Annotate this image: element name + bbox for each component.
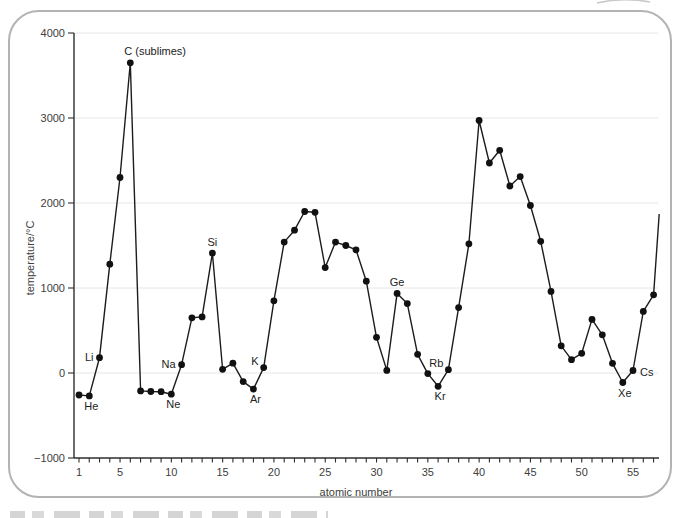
data-point-Pd: [537, 238, 544, 245]
data-point-Zn: [373, 334, 380, 341]
data-point-Rb: [445, 366, 452, 373]
top-edge-remnant: [597, 0, 650, 3]
y-tick-label: 2000: [41, 197, 65, 209]
data-point-I: [609, 360, 616, 367]
data-point-K: [260, 364, 267, 371]
annotation-Si: Si: [208, 236, 218, 248]
annotation-Kr: Kr: [435, 390, 446, 402]
data-point-Se: [414, 351, 421, 358]
data-point-Mg: [189, 314, 196, 321]
data-point-As: [404, 300, 411, 307]
y-tick-label: 0: [59, 367, 65, 379]
y-tick-label: 4000: [41, 27, 65, 39]
x-tick-label: 1: [76, 466, 82, 478]
annotation-Rb: Rb: [429, 357, 443, 369]
y-tick-label: 1000: [41, 282, 65, 294]
data-point-Tc: [507, 183, 514, 190]
x-axis-title: atomic number: [320, 486, 393, 498]
data-point-Mn: [322, 264, 329, 271]
data-point-Fe: [332, 239, 339, 246]
x-tick-label: 25: [319, 466, 331, 478]
annotation-Xe: Xe: [618, 387, 631, 399]
x-tick-label: 15: [217, 466, 229, 478]
data-point-Cu: [363, 278, 370, 285]
x-tick-label: 30: [370, 466, 382, 478]
annotation-Cs: Cs: [640, 366, 654, 378]
x-tick-label: 20: [268, 466, 280, 478]
data-point-Sn: [578, 350, 585, 357]
y-axis-title: temperature/°C: [24, 221, 36, 296]
annotation-C: C (sublimes): [124, 45, 186, 57]
data-point-La: [650, 291, 657, 298]
data-point-Ga: [383, 367, 390, 374]
annotation-Ge: Ge: [390, 276, 405, 288]
annotation-Ar: Ar: [250, 393, 261, 405]
data-point-Rh: [527, 202, 534, 209]
data-point-S: [230, 360, 237, 367]
data-point-Li: [96, 354, 103, 361]
x-tick-label: 50: [576, 466, 588, 478]
x-tick-label: 40: [473, 466, 485, 478]
data-point-He: [86, 393, 93, 400]
data-point-B: [117, 174, 124, 181]
annotation-He: He: [84, 400, 98, 412]
data-point-Si: [209, 250, 216, 257]
data-point-Ar: [250, 386, 257, 393]
data-point-Sb: [589, 316, 596, 323]
data-point-Sr: [455, 304, 462, 311]
figure-page: 40003000200010000−1000 15101520253035404…: [0, 0, 682, 518]
data-point-N: [137, 388, 144, 395]
data-point-F: [158, 388, 165, 395]
data-point-Ca: [271, 297, 278, 304]
data-point-Ge: [394, 290, 401, 297]
data-point-Sc: [281, 239, 288, 246]
x-tick-label: 45: [524, 466, 536, 478]
data-point-Zr: [476, 117, 483, 124]
data-point-C: [127, 59, 134, 66]
data-point-Cs: [630, 367, 637, 374]
cropped-caption-remnant: [10, 511, 328, 518]
x-tick-label: 10: [165, 466, 177, 478]
data-point-Ni: [353, 246, 360, 253]
data-point-Br: [424, 370, 431, 377]
x-tick-label: 5: [117, 466, 123, 478]
data-point-Na: [178, 361, 185, 368]
x-tick-label: 55: [627, 466, 639, 478]
data-point-Co: [342, 242, 349, 249]
data-point-Cl: [240, 378, 247, 385]
data-point-Te: [599, 331, 606, 338]
data-point-Ba: [640, 308, 647, 315]
data-point-V: [301, 208, 308, 215]
data-point-Kr: [435, 383, 442, 390]
annotation-Na: Na: [162, 358, 177, 370]
data-point-Ag: [548, 288, 555, 295]
y-tick-label: −1000: [34, 452, 65, 464]
data-point-P: [219, 366, 226, 373]
annotation-Li: Li: [85, 351, 94, 363]
data-point-Cd: [558, 342, 565, 349]
data-point-Y: [466, 240, 473, 247]
melting-point-chart: 40003000200010000−1000 15101520253035404…: [0, 0, 682, 518]
data-point-O: [147, 388, 154, 395]
data-point-Ti: [291, 227, 298, 234]
data-point-Cr: [312, 209, 319, 216]
data-point-Nb: [486, 160, 493, 167]
data-point-Al: [199, 314, 206, 321]
annotation-K: K: [251, 355, 259, 367]
data-point-In: [568, 356, 575, 363]
annotation-Ne: Ne: [166, 398, 180, 410]
data-point-H: [76, 392, 83, 399]
data-point-Be: [106, 261, 113, 268]
y-tick-label: 3000: [41, 112, 65, 124]
data-point-Mo: [496, 147, 503, 154]
x-tick-label: 35: [422, 466, 434, 478]
data-point-Xe: [619, 379, 626, 386]
data-point-Ne: [168, 391, 175, 398]
figure-panel-border: [9, 11, 671, 497]
data-point-Ru: [517, 173, 524, 180]
